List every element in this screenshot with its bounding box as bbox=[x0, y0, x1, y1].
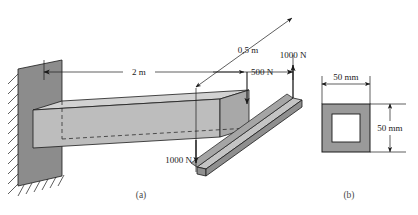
load-1000n-down-label: 1000 N bbox=[165, 155, 192, 165]
load-1000n-down: 1000 N bbox=[165, 140, 196, 165]
caption-part-b: (b) bbox=[343, 190, 354, 201]
caption-part-a: (a) bbox=[136, 190, 147, 201]
dimension-2m-label: 2 m bbox=[132, 67, 146, 77]
cross-section-tube bbox=[322, 104, 370, 152]
load-1000n-up: 1000 N bbox=[280, 50, 307, 98]
load-500n-label: 500 N bbox=[251, 67, 274, 77]
figure-canvas: 2 m 0,5 m 500 N 1000 N 1000 N bbox=[0, 0, 418, 215]
load-1000n-up-label: 1000 N bbox=[280, 50, 307, 60]
engineering-figure: 2 m 0,5 m 500 N 1000 N 1000 N bbox=[0, 0, 418, 215]
section-inner-hole bbox=[332, 114, 360, 142]
section-height-label: 50 mm bbox=[377, 123, 402, 133]
section-width-label: 50 mm bbox=[333, 72, 358, 82]
arm-near-end-face bbox=[197, 167, 206, 176]
beam-body bbox=[33, 90, 249, 148]
section-width-dimension: 50 mm bbox=[322, 72, 370, 104]
wall-hatching-left bbox=[8, 74, 18, 194]
section-height-dimension: 50 mm bbox=[370, 104, 406, 152]
dimension-05m-label: 0,5 m bbox=[238, 45, 259, 55]
